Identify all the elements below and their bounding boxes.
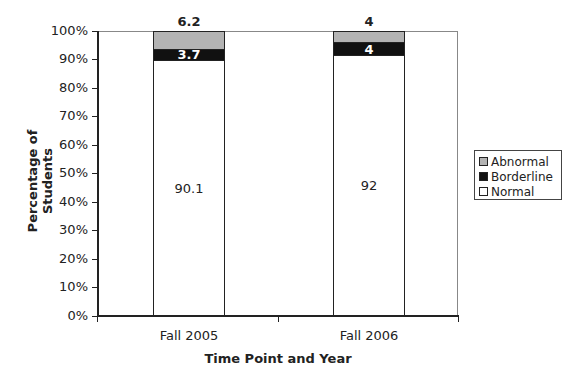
- y-tick: [92, 173, 98, 174]
- x-tick: [458, 316, 459, 322]
- bar-fall-2005: 3.7 90.1: [153, 31, 225, 316]
- y-tick-label: 10%: [36, 279, 88, 294]
- legend-item-borderline: Borderline: [479, 169, 557, 184]
- y-tick: [92, 59, 98, 60]
- x-category-label: Fall 2005: [129, 328, 249, 343]
- segment-normal: 90.1: [154, 60, 224, 315]
- normal-swatch-icon: [479, 187, 488, 196]
- abnormal-swatch-icon: [479, 157, 488, 166]
- y-tick: [92, 230, 98, 231]
- legend-item-abnormal: Abnormal: [479, 154, 557, 169]
- legend-label: Borderline: [491, 170, 553, 184]
- y-axis-title: Percentage of Students: [25, 96, 55, 266]
- y-tick: [92, 88, 98, 89]
- segment-borderline: 3.7: [154, 50, 224, 61]
- borderline-swatch-icon: [479, 172, 488, 181]
- y-tick: [92, 145, 98, 146]
- x-tick: [97, 316, 98, 322]
- segment-normal: 92: [334, 55, 404, 315]
- y-tick: [92, 287, 98, 288]
- y-tick: [92, 259, 98, 260]
- legend: Abnormal Borderline Normal: [474, 150, 562, 200]
- y-tick-label: 100%: [36, 23, 88, 38]
- legend-label: Abnormal: [491, 155, 549, 169]
- y-tick: [92, 116, 98, 117]
- y-axis: [97, 31, 99, 317]
- bar-fall-2006: 4 92: [333, 31, 405, 316]
- legend-label: Normal: [491, 185, 534, 199]
- y-tick: [92, 31, 98, 32]
- x-axis-title: Time Point and Year: [178, 351, 378, 366]
- y-tick-label: 90%: [36, 51, 88, 66]
- legend-item-normal: Normal: [479, 184, 557, 199]
- x-category-label: Fall 2006: [309, 328, 429, 343]
- abnormal-value-label: 6.2: [153, 14, 225, 29]
- y-tick-label: 80%: [36, 80, 88, 95]
- abnormal-value-label: 4: [333, 14, 405, 29]
- x-tick: [278, 316, 279, 322]
- y-tick-label: 0%: [36, 308, 88, 323]
- segment-borderline: 4: [334, 43, 404, 54]
- y-tick: [92, 202, 98, 203]
